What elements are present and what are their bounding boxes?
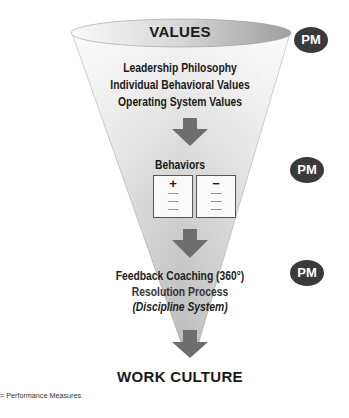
pm-badge: PM (290, 260, 324, 286)
behavior-line: ~~~ (197, 206, 235, 214)
positive-behaviors-box: + ~~~ ~~~ ~~~ (153, 175, 193, 218)
negative-behaviors-box: − ~~~ ~~~ ~~~ (196, 175, 236, 218)
pm-badge: PM (294, 27, 328, 53)
legend-text: = Performance Measures (0, 391, 81, 400)
feedback-item: Resolution Process (60, 285, 301, 299)
behavior-line: ~~~ (154, 206, 192, 214)
values-item: Leadership Philosophy (60, 61, 301, 75)
behavior-line: ~~~ (197, 198, 235, 206)
values-item: Operating System Values (60, 95, 301, 109)
feedback-item: Feedback Coaching (360°) (60, 269, 301, 283)
values-item: Individual Behavioral Values (60, 78, 301, 92)
minus-icon: − (197, 177, 235, 190)
arrow-down-icon (172, 330, 208, 358)
values-title: VALUES (40, 23, 320, 40)
plus-icon: + (154, 177, 192, 190)
pm-badge: PM (290, 157, 324, 183)
feedback-item: (Discipline System) (60, 300, 301, 314)
work-culture-label: WORK CULTURE (40, 368, 320, 385)
behavior-line: ~~~ (197, 190, 235, 198)
behavior-line: ~~~ (154, 198, 192, 206)
behavior-line: ~~~ (154, 190, 192, 198)
behaviors-title: Behaviors (60, 158, 301, 172)
